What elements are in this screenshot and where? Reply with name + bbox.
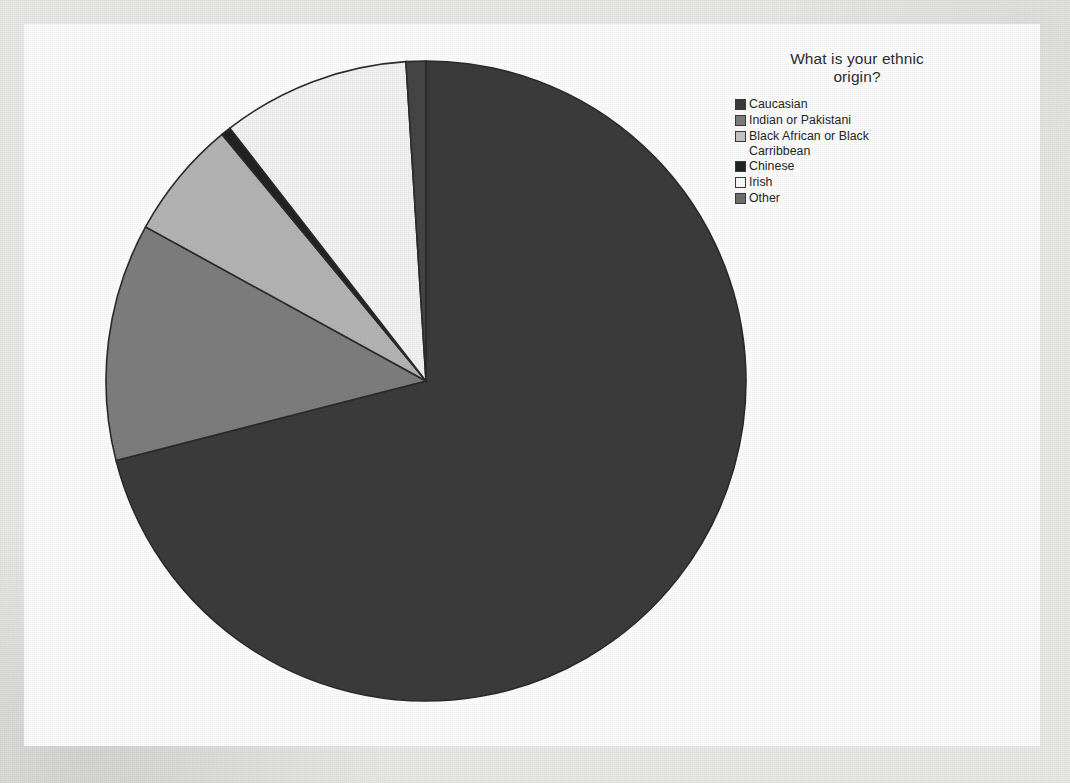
legend-swatch-icon xyxy=(735,193,746,204)
legend-item-chinese[interactable]: Chinese xyxy=(735,159,975,174)
legend-item-label: Black African or BlackCarribbean xyxy=(749,129,869,158)
legend-item-black-african-or-black-carribbean[interactable]: Black African or BlackCarribbean xyxy=(735,129,975,158)
legend-item-irish[interactable]: Irish xyxy=(735,175,975,190)
legend-item-label-line-1: Black African or Black xyxy=(749,129,869,143)
scanned-page-canvas: What is your ethnicorigin? Caucasian Ind… xyxy=(0,0,1070,783)
legend-swatch-icon xyxy=(735,115,746,126)
pie-slice-group xyxy=(106,61,746,701)
legend-swatch-icon xyxy=(735,99,746,110)
legend-item-label: Caucasian xyxy=(749,97,808,112)
legend-swatch-icon xyxy=(735,131,746,142)
legend-title-line-2: origin? xyxy=(833,68,880,85)
pie-chart-figure xyxy=(102,57,750,705)
legend-item-caucasian[interactable]: Caucasian xyxy=(735,97,975,112)
legend-swatch-icon xyxy=(735,161,746,172)
legend-item-label: Chinese xyxy=(749,159,794,174)
legend-item-label: Irish xyxy=(749,175,772,190)
legend-title-line-1: What is your ethnic xyxy=(790,50,924,67)
chart-page-sheet: What is your ethnicorigin? Caucasian Ind… xyxy=(24,24,1040,746)
pie-chart-svg xyxy=(102,57,750,705)
legend-item-label-line-2: Carribbean xyxy=(749,144,810,158)
legend-item-other[interactable]: Other xyxy=(735,191,975,206)
legend-item-indian-or-pakistani[interactable]: Indian or Pakistani xyxy=(735,113,975,128)
legend-item-label: Other xyxy=(749,191,780,206)
legend-title: What is your ethnicorigin? xyxy=(753,50,961,86)
legend-item-label: Indian or Pakistani xyxy=(749,113,851,128)
chart-legend: What is your ethnicorigin? Caucasian Ind… xyxy=(735,50,975,207)
legend-swatch-icon xyxy=(735,177,746,188)
